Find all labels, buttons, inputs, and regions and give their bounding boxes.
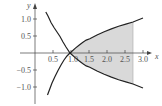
x-tick-label: 1.5 — [84, 55, 94, 64]
y-tick-label: −1.0 — [16, 83, 31, 92]
y-tick-label: −0.5 — [16, 66, 31, 75]
x-tick-label: 2.0 — [102, 55, 112, 64]
y-axis-label: y — [26, 1, 31, 10]
y-tick-label: 1.0 — [21, 15, 31, 24]
x-tick-label: 0.5 — [48, 55, 58, 64]
x-tick-label: 3.0 — [138, 55, 148, 64]
y-tick-label: 0.5 — [21, 32, 31, 41]
y-axis-arrow-icon — [33, 3, 37, 9]
x-axis-label: x — [154, 52, 159, 61]
chart: 0.5 1.0 1.5 2.0 2.5 3.0 1.0 0.5 −0.5 −1.… — [0, 0, 162, 106]
x-tick-label: 2.5 — [120, 55, 130, 64]
